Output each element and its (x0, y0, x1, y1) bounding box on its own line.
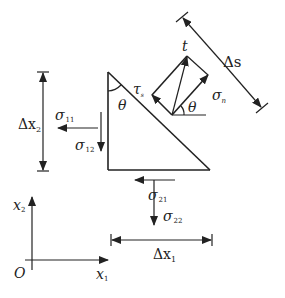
theta-arc-vector (181, 106, 184, 115)
tau-s-arrow (152, 95, 172, 115)
sigma12-label: σ12 (75, 137, 94, 154)
origin-label: O (14, 265, 26, 281)
t-label: t (182, 38, 188, 54)
stress-diagram: θ Δx2 σ11 σ12 σ21 σ22 Δx1 (0, 0, 285, 298)
traction-vector-diagram (152, 56, 208, 115)
theta-arc (108, 85, 121, 91)
sigma-n-label: σn (212, 87, 227, 105)
delta-s-label: Δs (223, 53, 242, 71)
coordinate-axes (25, 197, 108, 270)
delta-x2-label: Δx2 (18, 116, 41, 134)
theta-label-vector: θ (188, 99, 197, 115)
theta-label-triangle: θ (118, 97, 127, 113)
sigma11-label: σ11 (55, 107, 74, 124)
delta-x1-dimension (111, 234, 212, 246)
delta-x2-dimension (37, 72, 49, 171)
tau-s-label: τs (133, 81, 144, 98)
parallelogram-side (187, 56, 208, 75)
x1-axis-label: x1 (96, 266, 108, 283)
x2-axis-label: x2 (13, 197, 25, 214)
delta-x1-label: Δx1 (153, 246, 176, 264)
sigma21-label: σ21 (148, 187, 167, 204)
sigma22-label: σ22 (163, 208, 182, 225)
